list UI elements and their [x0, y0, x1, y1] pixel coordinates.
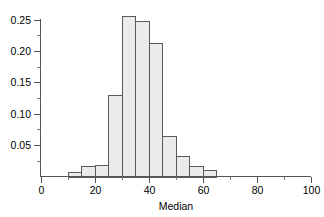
y-tick-label: 0.25	[11, 14, 32, 26]
histogram-bar	[163, 137, 177, 178]
bars-group	[69, 17, 217, 178]
histogram-bar	[177, 157, 190, 178]
x-tick-label: 60	[198, 184, 210, 196]
y-tick-label: 0.20	[11, 45, 32, 57]
histogram-bar	[123, 17, 136, 178]
y-tick-label: 0.15	[11, 76, 32, 88]
x-tick-labels: 020406080100	[39, 184, 321, 196]
histogram-bar	[96, 166, 109, 178]
y-tick-marks	[34, 21, 41, 162]
x-tick-label: 80	[252, 184, 264, 196]
x-axis-title: Median	[159, 200, 194, 212]
histogram-plot: 0.050.100.150.200.25 020406080100 Median	[0, 0, 324, 217]
histogram-bar	[109, 96, 123, 178]
histogram-screenshot: 0.050.100.150.200.25 020406080100 Median	[0, 0, 324, 217]
histogram-bar	[190, 167, 204, 178]
histogram-bar	[136, 22, 150, 178]
y-tick-label: 0.05	[11, 139, 32, 151]
x-tick-label: 40	[144, 184, 156, 196]
histogram-bar	[150, 44, 163, 178]
y-axis: 0.050.100.150.200.25	[11, 14, 41, 176]
x-tick-label: 100	[303, 184, 321, 196]
y-tick-label: 0.10	[11, 108, 32, 120]
histogram-bar	[82, 167, 96, 178]
x-tick-label: 20	[90, 184, 102, 196]
y-tick-labels: 0.050.100.150.200.25	[11, 14, 32, 151]
x-axis: 020406080100	[39, 177, 321, 197]
x-tick-label: 0	[39, 184, 45, 196]
